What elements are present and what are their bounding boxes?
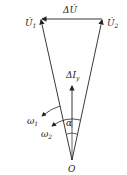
omega2-label: ω2	[41, 129, 52, 140]
omega1-label: ω1	[27, 116, 38, 127]
delta-iy-label: ΔIy	[65, 70, 80, 82]
omega1-arc	[42, 106, 60, 116]
alpha-label: α	[66, 118, 72, 128]
delta-u-label: ΔU̇	[62, 4, 77, 15]
u2-label: U̇2	[107, 17, 119, 29]
phasor-diagram: ΔU̇ U̇1 U̇2 ΔIy ω1 ω2 α O	[0, 0, 127, 175]
u2-vector	[72, 20, 102, 160]
u1-label: U̇1	[25, 17, 36, 29]
phasor-svg: ΔU̇ U̇1 U̇2 ΔIy ω1 ω2 α O	[0, 0, 127, 175]
origin-label: O	[68, 164, 76, 174]
u1-vector	[41, 20, 72, 160]
